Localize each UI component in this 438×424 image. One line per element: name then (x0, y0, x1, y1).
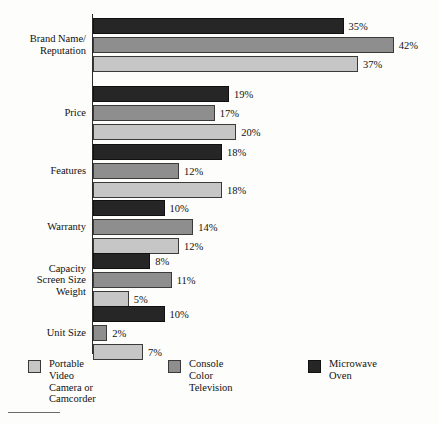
bar (93, 306, 165, 322)
bar (93, 144, 222, 160)
bar-row: 10% (93, 306, 433, 322)
bar-row: 18% (93, 182, 433, 198)
bar (93, 272, 172, 288)
bar-row: 10% (93, 200, 433, 216)
category-label: Unit Size (0, 327, 86, 339)
bar-value-label: 7% (143, 347, 162, 358)
bar (93, 86, 229, 102)
footer-rule (8, 412, 60, 413)
bar-row: 5% (93, 291, 433, 307)
bar (93, 182, 222, 198)
category-label-line: Reputation (0, 45, 86, 57)
bar-value-label: 12% (179, 241, 203, 252)
legend-swatch-icon (308, 360, 321, 373)
bar-value-label: 10% (165, 203, 189, 214)
bar (93, 200, 165, 216)
category-label-line: Features (0, 165, 86, 177)
legend-label: Console Color Television (189, 358, 233, 393)
legend-label: Microwave Oven (329, 358, 377, 382)
bar-value-label: 42% (394, 40, 418, 51)
bar (93, 124, 236, 140)
bar-row: 8% (93, 253, 433, 269)
bar-value-label: 10% (165, 309, 189, 320)
bar-row: 12% (93, 238, 433, 254)
bar-value-label: 12% (179, 166, 203, 177)
bar (93, 37, 394, 53)
category-label-line: Unit Size (0, 327, 86, 339)
bar-row: 42% (93, 37, 433, 53)
legend-label: Portable Video Camera or Camcorder (49, 358, 96, 405)
bar-chart: Brand Name/Reputation35%42%37%Price19%17… (0, 0, 438, 424)
legend-swatch-icon (28, 360, 41, 373)
category-label: Price (0, 107, 86, 119)
bar-value-label: 37% (358, 59, 382, 70)
bar-value-label: 11% (172, 275, 196, 286)
bar (93, 219, 193, 235)
bar-value-label: 17% (215, 108, 239, 119)
category-label: CapacityScreen SizeWeight (0, 263, 86, 298)
bar-value-label: 8% (150, 256, 169, 267)
bar-row: 20% (93, 124, 433, 140)
bar-row: 18% (93, 144, 433, 160)
bar-value-label: 35% (344, 21, 368, 32)
category-label-line: Warranty (0, 221, 86, 233)
bar-value-label: 19% (229, 89, 253, 100)
bar (93, 325, 107, 341)
bar-row: 19% (93, 86, 433, 102)
bar-value-label: 2% (107, 328, 126, 339)
plot-area: Brand Name/Reputation35%42%37%Price19%17… (0, 0, 438, 356)
bar-value-label: 14% (193, 222, 217, 233)
bar-value-label: 5% (129, 294, 148, 305)
bar-row: 11% (93, 272, 433, 288)
bar (93, 18, 344, 34)
bar-row: 17% (93, 105, 433, 121)
category-label: Warranty (0, 221, 86, 233)
category-label: Features (0, 165, 86, 177)
bar-value-label: 18% (222, 185, 246, 196)
category-label-line: Screen Size (0, 274, 86, 286)
chart-legend: Portable Video Camera or CamcorderConsol… (0, 358, 438, 410)
bar-row: 37% (93, 56, 433, 72)
bar-value-label: 18% (222, 147, 246, 158)
category-label-line: Brand Name/ (0, 33, 86, 45)
bar (93, 56, 358, 72)
bar (93, 105, 215, 121)
category-label-line: Weight (0, 286, 86, 298)
bar-value-label: 20% (236, 127, 260, 138)
category-label: Brand Name/Reputation (0, 33, 86, 56)
bar-row: 14% (93, 219, 433, 235)
category-label-line: Capacity (0, 263, 86, 275)
bar-row: 12% (93, 163, 433, 179)
category-label-line: Price (0, 107, 86, 119)
bar-row: 2% (93, 325, 433, 341)
bar (93, 163, 179, 179)
bar-row: 35% (93, 18, 433, 34)
legend-swatch-icon (168, 360, 181, 373)
bar (93, 238, 179, 254)
bar (93, 253, 150, 269)
bar (93, 291, 129, 307)
